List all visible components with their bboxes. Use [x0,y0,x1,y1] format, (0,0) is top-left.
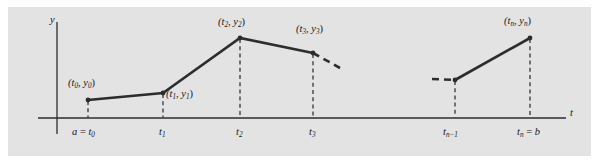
point-tn-1 [453,78,458,83]
point-label-t3: (t3, y3) [296,24,323,35]
tn-eq: = [524,126,535,137]
p0-sub2: 0 [88,82,92,90]
p3-sub2: 3 [316,28,320,36]
t1-sub: 1 [162,131,166,139]
tn-post: b [535,126,540,137]
pn-mid: , y [514,15,524,26]
y-axis-label: y [50,15,55,26]
data-point-markers [86,36,533,103]
x-tick-label-t3: t3 [309,127,316,138]
p2-sub1: 2 [224,21,228,29]
pn-sub1: n [510,20,514,28]
tn1-sub: n−1 [446,131,458,139]
x-tick-label-t1: t1 [159,127,166,138]
p2-mid: , y [228,16,238,27]
point-label-tn: (tn, yn) [504,16,531,27]
p2-close: ) [242,16,246,27]
pn-sub2: n [524,20,528,28]
pn-close: ) [528,15,532,26]
p3-sub1: 3 [302,28,306,36]
x-tick-label-t0: a = t0 [72,127,95,138]
p0-sub1: 0 [74,82,78,90]
p3-close: ) [320,23,324,34]
point-t1 [161,91,166,96]
p1-close: ) [190,88,194,99]
p1-mid: , y [176,88,186,99]
p1-sub2: 1 [186,93,190,101]
p1-sub1: 1 [172,93,176,101]
x-axis-label: t [570,108,573,119]
figure-container: y t (t0, y0) (t1, y1) (t2, y2) (t3, y3) … [0,0,599,163]
x-tick-label-t2: t2 [236,127,243,138]
droplines [88,39,530,118]
x-tick-label-tn: tn = b [517,127,540,138]
p0-close: ) [92,77,96,88]
continuation-after-t3 [313,53,340,68]
tn-sub: n [520,131,524,139]
point-label-t1: (t1, y1) [166,89,193,100]
piecewise-curve [88,38,530,100]
t3-sub: 3 [312,131,316,139]
t0-sub: 0 [91,131,95,139]
point-t0 [86,98,91,103]
p3-mid: , y [306,23,316,34]
segment-tn1-tn [455,38,530,80]
curve-continuations [313,53,455,80]
p2-sub2: 2 [238,21,242,29]
x-tick-label-tn-1: tn−1 [443,127,458,138]
t2-sub: 2 [239,131,243,139]
point-label-t0: (t0, y0) [68,78,95,89]
segment-t0-t1-t2-t3 [88,38,313,100]
point-t3 [311,51,316,56]
point-label-t2: (t2, y2) [218,17,245,28]
point-tn [528,36,533,41]
point-t2 [238,36,243,41]
continuation-before-tn-1 [432,79,455,80]
t0-eq: = [77,126,88,137]
p0-mid: , y [78,77,88,88]
